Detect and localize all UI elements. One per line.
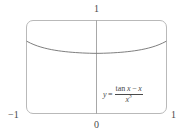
axis-label-bottom: 0 xyxy=(94,120,99,130)
axis-label-top: 1 xyxy=(94,4,99,14)
equation-tan-function: tan xyxy=(116,84,126,93)
equation-numerator-second-term: x xyxy=(138,84,142,93)
math-figure: 1 0 −1 1 y = tan x − x x3 xyxy=(0,0,184,138)
plot-canvas xyxy=(0,0,184,138)
equation-denominator-exponent: 3 xyxy=(129,93,132,99)
axis-label-right: 1 xyxy=(171,110,176,120)
equation-equals-sign: = xyxy=(108,91,113,99)
equation-annotation: y = tan x − x x3 xyxy=(103,85,143,104)
equation-lhs: y xyxy=(103,91,107,99)
equation-fraction: tan x − x x3 xyxy=(115,85,143,104)
axis-label-left: −1 xyxy=(8,110,19,120)
equation-denominator: x3 xyxy=(125,95,133,104)
